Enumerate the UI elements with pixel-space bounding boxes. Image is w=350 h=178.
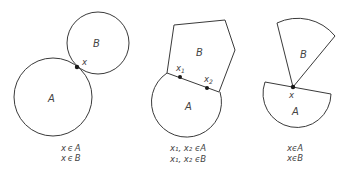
caption-line-1: xϵA <box>286 143 303 153</box>
caption-line-1: x₁, x₂ ϵA <box>169 143 206 153</box>
region-b-label: B <box>93 38 100 49</box>
set-boundary-diagram: x A B x ϵ A x ϵ B x1 x2 A B x₁, x₂ ϵA x₁… <box>0 0 350 178</box>
panel-tangent-circles: x A B x ϵ A x ϵ B <box>14 12 129 163</box>
point-x2 <box>205 86 209 90</box>
caption-line-2: x₁, x₂ ϵB <box>169 154 206 164</box>
panel-shared-boundary: x1 x2 A B x₁, x₂ ϵA x₁, x₂ ϵB <box>151 20 235 164</box>
point-x1-label: x1 <box>175 63 185 74</box>
caption-line-2: x ϵ B <box>60 153 81 163</box>
point-x2-label: x2 <box>203 74 213 85</box>
point-x-label: x <box>81 57 88 67</box>
panel-single-point-contact: x A B xϵA xϵB <box>263 18 335 163</box>
region-b-label: B <box>300 49 307 60</box>
caption-line-1: x ϵ A <box>60 143 81 153</box>
region-b-label: B <box>196 47 203 58</box>
region-a-segment <box>263 82 331 127</box>
region-a-label: A <box>184 101 192 112</box>
caption-line-2: xϵB <box>286 153 303 163</box>
region-a-label: A <box>291 106 299 117</box>
point-x <box>291 85 295 89</box>
point-x <box>75 65 79 69</box>
point-x1 <box>178 75 182 79</box>
region-a-label: A <box>47 93 55 104</box>
point-x-label: x <box>288 90 295 100</box>
